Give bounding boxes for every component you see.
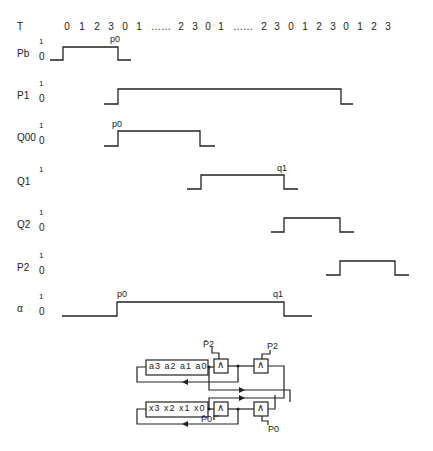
cell-a0: a0 (196, 361, 208, 371)
and-gate-icon: ∧ (257, 359, 264, 370)
waveform-p0 (50, 47, 131, 60)
input-p2: P2 (267, 341, 278, 351)
timing-waveforms (0, 0, 433, 451)
input-p2-bar: P̄2 (203, 339, 214, 349)
waveform-alpha (62, 302, 312, 316)
input-p0: P0 (268, 424, 279, 434)
cell-x2: x2 (164, 403, 176, 413)
cell-x0: x0 (194, 403, 206, 413)
cell-x3: x3 (149, 403, 161, 413)
cell-a1: a1 (180, 361, 192, 371)
and-gate-icon: ∧ (217, 359, 224, 370)
cell-x1: x1 (179, 403, 191, 413)
cell-a3: a3 (149, 361, 161, 371)
register-a-cells: a3 a2 a1 a0 (149, 361, 208, 371)
register-x-cells: x3 x2 x1 x0 (149, 403, 206, 413)
waveform-q1 (187, 175, 298, 189)
input-p0-bar: P̄0 (201, 414, 212, 424)
waveform-q2 (271, 218, 354, 232)
and-gate-icon: ∧ (217, 402, 224, 413)
waveform-q0 (104, 131, 215, 146)
cell-a2: a2 (165, 361, 177, 371)
and-gate-icon: ∧ (257, 402, 264, 413)
waveform-p2 (326, 261, 409, 275)
waveform-p1 (104, 89, 353, 104)
